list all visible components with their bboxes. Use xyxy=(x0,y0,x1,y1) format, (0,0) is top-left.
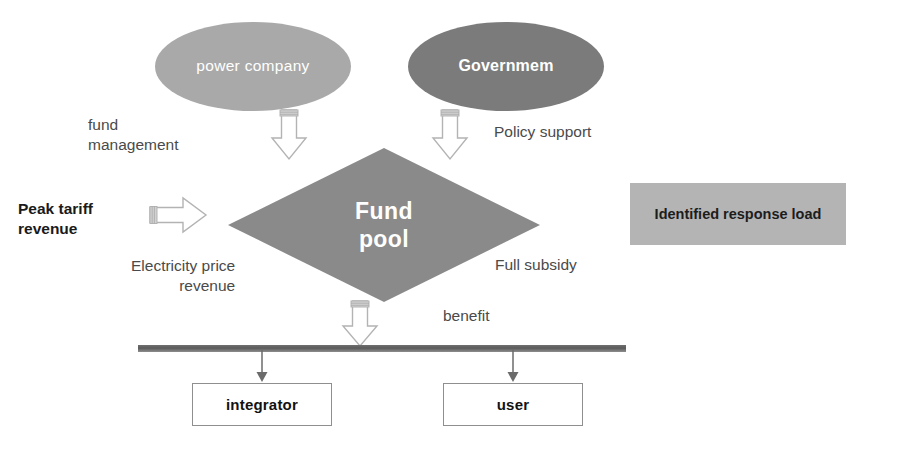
node-government-label: Governmem xyxy=(458,57,553,76)
label-policy-support: Policy support xyxy=(494,122,591,142)
node-fund-pool-text: Fund pool xyxy=(228,148,540,302)
label-electricity-price-revenue: Electricity price revenue xyxy=(131,256,235,296)
integrator-connector-arrow-icon xyxy=(254,350,270,384)
user-connector-arrow-icon xyxy=(505,350,521,384)
node-identified-response-load: Identified response load xyxy=(630,183,846,245)
node-integrator-label: integrator xyxy=(226,396,298,413)
node-fund-pool-label-line1: Fund xyxy=(355,197,413,225)
distribution-bar xyxy=(138,345,626,352)
diagram-canvas: power company Governmem fund management … xyxy=(0,0,898,457)
node-fund-pool-label-line2: pool xyxy=(359,225,409,253)
node-user-label: user xyxy=(497,396,530,413)
node-integrator: integrator xyxy=(192,383,332,426)
node-power-company-label: power company xyxy=(196,57,309,75)
peak-tariff-arrow-icon xyxy=(147,194,209,236)
label-benefit: benefit xyxy=(443,306,490,326)
node-fund-pool: Fund pool xyxy=(228,148,540,302)
node-user: user xyxy=(443,383,583,426)
label-full-subsidy: Full subsidy xyxy=(495,255,577,275)
benefit-arrow-icon xyxy=(340,299,380,349)
label-fund-management: fund management xyxy=(88,115,178,155)
node-government: Governmem xyxy=(408,22,604,111)
node-power-company: power company xyxy=(155,22,351,111)
node-identified-response-load-label: Identified response load xyxy=(655,205,822,223)
label-peak-tariff-revenue: Peak tariff revenue xyxy=(18,199,93,239)
